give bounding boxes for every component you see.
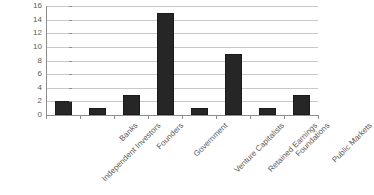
bar (123, 95, 140, 115)
y-tick-label: 12 (26, 29, 42, 37)
bar (157, 13, 174, 115)
x-tick-mark (284, 115, 285, 119)
x-tick-label: Public Markets (330, 121, 373, 164)
y-tick-label: 6 (26, 70, 42, 78)
bar (225, 54, 242, 115)
y-tick-label: 16 (26, 2, 42, 10)
gridline-4 (46, 88, 318, 89)
y-tick-label: 8 (26, 57, 42, 65)
y-tick-mark (69, 33, 72, 34)
x-tick-mark (114, 115, 115, 119)
x-tick-mark (182, 115, 183, 119)
x-tick-mark (318, 115, 319, 119)
y-tick-mark (69, 74, 72, 75)
x-tick-mark (250, 115, 251, 119)
bar (191, 108, 208, 115)
plot-area (46, 6, 318, 115)
x-tick-label: Government (192, 121, 229, 158)
gridline-14 (46, 20, 318, 21)
y-tick-mark (69, 101, 72, 102)
bar (293, 95, 310, 115)
y-tick-label: 14 (26, 16, 42, 24)
y-tick-label: 2 (26, 97, 42, 105)
y-tick-label: 10 (26, 43, 42, 51)
x-axis-labels: Independent InvestorsBanksFoundersGovern… (0, 115, 331, 195)
y-tick-mark (69, 6, 72, 7)
gridline-12 (46, 33, 318, 34)
x-tick-mark (46, 115, 47, 119)
x-tick-mark (216, 115, 217, 119)
x-tick-mark (80, 115, 81, 119)
gridline-10 (46, 47, 318, 48)
y-tick-mark (69, 47, 72, 48)
y-axis-line (46, 6, 47, 116)
gridline-8 (46, 61, 318, 62)
y-tick-mark (69, 88, 72, 89)
bar (89, 108, 106, 115)
gridline-2 (46, 101, 318, 102)
y-tick-label: 4 (26, 84, 42, 92)
y-tick-mark (69, 20, 72, 21)
gridline-16 (46, 6, 318, 7)
x-tick-mark (148, 115, 149, 119)
y-tick-mark (69, 61, 72, 62)
gridline-6 (46, 74, 318, 75)
bar (55, 101, 72, 115)
bar (259, 108, 276, 115)
